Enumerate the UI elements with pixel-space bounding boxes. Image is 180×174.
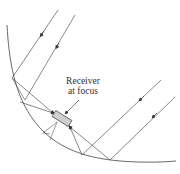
receiver-label-line2: at focus (62, 86, 104, 96)
cross-ray (12, 78, 25, 100)
reflected-ray-3 (70, 127, 110, 160)
receiver-label-line1: Receiver (62, 76, 104, 86)
reflected-ray-1 (12, 78, 53, 113)
incoming-ray-1 (12, 10, 58, 78)
label-pointer (66, 100, 79, 113)
receiver-label: Receiver at focus (62, 76, 104, 96)
reflected-ray-2 (20, 102, 53, 113)
incoming-ray-4 (110, 97, 175, 160)
reflected-ray-4 (70, 127, 82, 155)
incoming-ray-1-arrow (41, 31, 44, 36)
receiver (52, 110, 72, 126)
incoming-ray-3-arrow (140, 96, 144, 100)
